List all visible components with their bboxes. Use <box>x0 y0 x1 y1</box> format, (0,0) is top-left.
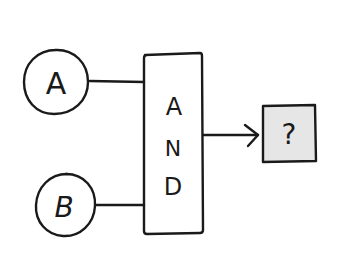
input-b-label: B <box>54 191 73 224</box>
input-a-node: A <box>24 50 88 114</box>
input-a-label: A <box>46 66 67 101</box>
and-gate-letter-n: N <box>165 136 181 161</box>
and-gate-letter-d: D <box>164 173 182 201</box>
and-gate: A N D <box>144 53 203 234</box>
output-node: ? <box>263 105 316 162</box>
output-arrow <box>203 125 258 146</box>
output-label: ? <box>282 118 297 151</box>
input-b-node: B <box>36 174 95 236</box>
wire-a-to-gate <box>90 81 144 82</box>
and-gate-diagram: A B A N D ? <box>0 0 339 267</box>
and-gate-letter-a: A <box>166 93 183 121</box>
